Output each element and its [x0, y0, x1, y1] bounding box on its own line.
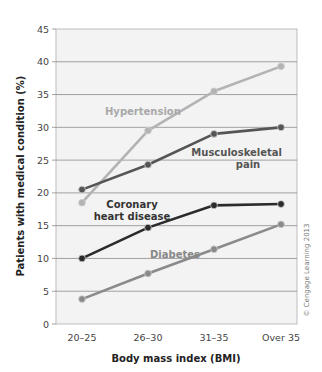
- data-point: [211, 130, 218, 137]
- data-point: [79, 255, 86, 262]
- x-axis-ticks: 20–2526–3031–35Over 35: [68, 332, 300, 343]
- data-point: [278, 63, 285, 70]
- data-point: [79, 296, 86, 303]
- data-point: [278, 221, 285, 228]
- label-musculoskeletal: Musculoskeletal: [191, 147, 282, 158]
- y-axis-ticks: 051015202530354045: [37, 24, 49, 330]
- data-point: [278, 124, 285, 131]
- x-axis-label: Body mass index (BMI): [111, 353, 240, 364]
- data-point: [145, 161, 152, 168]
- data-point: [278, 201, 285, 208]
- data-point: [79, 186, 86, 193]
- data-point: [211, 88, 218, 95]
- y-tick-label: 40: [37, 56, 49, 67]
- label-diabetes: Diabetes: [150, 249, 200, 260]
- y-tick-label: 30: [37, 122, 49, 133]
- data-point: [145, 224, 152, 231]
- y-tick-label: 15: [37, 220, 49, 231]
- data-point: [211, 202, 218, 209]
- y-tick-label: 0: [43, 319, 49, 330]
- y-tick-label: 25: [37, 155, 49, 166]
- x-tick-label: 20–25: [68, 332, 97, 343]
- label-coronary: Coronary: [106, 199, 158, 210]
- data-point: [211, 246, 218, 253]
- label-heart-disease: heart disease: [94, 211, 171, 222]
- x-tick-label: 26–30: [134, 332, 163, 343]
- x-tick-label: 31–35: [200, 332, 229, 343]
- x-tick-label: Over 35: [262, 332, 300, 343]
- data-point: [145, 270, 152, 277]
- line-chart: 051015202530354045 20–2526–3031–35Over 3…: [0, 0, 322, 372]
- data-point: [145, 127, 152, 134]
- y-tick-label: 20: [37, 187, 49, 198]
- y-tick-label: 5: [43, 286, 49, 297]
- y-tick-label: 10: [37, 253, 49, 264]
- y-tick-label: 35: [37, 89, 49, 100]
- y-tick-label: 45: [37, 24, 49, 35]
- label-hypertension: Hypertension: [105, 106, 181, 117]
- label-pain: pain: [236, 159, 260, 170]
- credit-text: © Cengage Learning 2013: [303, 224, 311, 317]
- data-point: [79, 199, 86, 206]
- y-axis-label: Patients with medical condition (%): [15, 76, 26, 277]
